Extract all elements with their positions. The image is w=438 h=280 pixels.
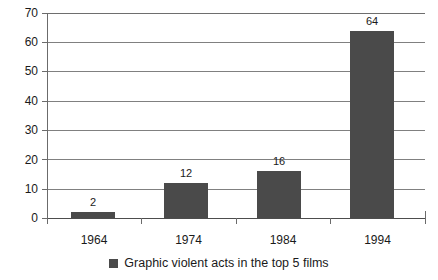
x-tick-label-1994: 1994	[330, 233, 425, 247]
y-tick-label-20: 20	[6, 154, 38, 166]
y-tick-label-70: 70	[6, 7, 38, 19]
y-tick-label-0: 0	[6, 212, 38, 224]
bar-1994	[350, 31, 394, 218]
bar-value-1994: 64	[350, 16, 394, 27]
x-tick-mark-1	[141, 218, 142, 224]
legend-label: Graphic violent acts in the top 5 films	[124, 256, 328, 270]
bar-1984	[257, 171, 301, 218]
y-tick-label-50: 50	[6, 65, 38, 77]
y-tick-label-30: 30	[6, 124, 38, 136]
x-tick-mark-2	[236, 218, 237, 224]
y-axis: 70 60 50 40 30 20 10 0	[0, 0, 38, 280]
bar-chart: 70 60 50 40 30 20 10 0 2 12 16 64	[0, 0, 438, 280]
x-tick-label-1984: 1984	[236, 233, 330, 247]
gridline-70	[47, 13, 425, 14]
bar-value-1984: 16	[257, 156, 301, 167]
bar-1974	[164, 183, 208, 218]
y-tick-label-10: 10	[6, 183, 38, 195]
x-tick-label-1974: 1974	[141, 233, 236, 247]
bar-value-1974: 12	[164, 168, 208, 179]
y-tick-label-40: 40	[6, 95, 38, 107]
legend-swatch-icon	[109, 259, 118, 268]
x-tick-mark-4	[425, 218, 426, 224]
x-tick-label-1964: 1964	[47, 233, 141, 247]
value-axis-line	[47, 13, 48, 219]
chart-legend: Graphic violent acts in the top 5 films	[0, 256, 438, 270]
x-tick-mark-3	[330, 218, 331, 224]
x-tick-mark-0	[47, 218, 48, 224]
plot-area: 2 12 16 64	[47, 13, 425, 218]
bar-value-1964: 2	[71, 197, 115, 208]
y-tick-label-60: 60	[6, 36, 38, 48]
